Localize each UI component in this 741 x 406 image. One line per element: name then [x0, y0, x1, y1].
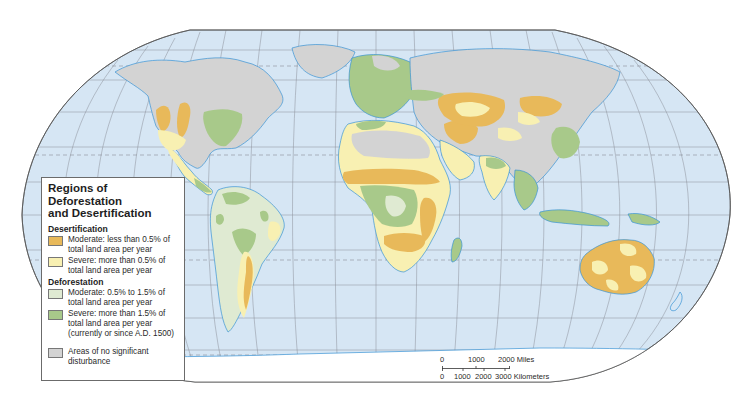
- map-legend: Regions of Deforestation and Desertifica…: [41, 177, 185, 381]
- legend-item-desert-severe: Severe: more than 0.5% of total land are…: [48, 256, 179, 276]
- legend-line: Severe: more than 1.5% of: [68, 309, 165, 318]
- swatch-deforest-moderate: [48, 289, 63, 299]
- scale-km-tick: 1000: [454, 372, 471, 381]
- legend-item-deforest-severe: Severe: more than 1.5% of total land are…: [48, 309, 179, 339]
- legend-item-text: Severe: more than 0.5% of total land are…: [68, 256, 165, 276]
- scale-km-tick: 2000: [475, 372, 492, 381]
- scale-mile-tick: 0: [440, 355, 444, 364]
- legend-line: Severe: more than 0.5% of: [68, 256, 165, 265]
- legend-line: total land area per year: [68, 319, 152, 328]
- scale-km-tick: 3000 Kilometers: [495, 372, 549, 381]
- legend-item-text: Severe: more than 1.5% of total land are…: [68, 309, 174, 339]
- legend-line: total land area per year: [68, 245, 152, 254]
- scale-mile-tick: 2000 Miles: [498, 355, 534, 364]
- scale-line: [442, 366, 522, 371]
- scale-mile-tick: 1000: [468, 355, 485, 364]
- legend-line: Moderate: 0.5% to 1.5% of: [68, 288, 165, 297]
- legend-item-desert-moderate: Moderate: less than 0.5% of total land a…: [48, 235, 179, 255]
- legend-line: total land area per year: [68, 266, 152, 275]
- swatch-no-disturbance: [48, 348, 63, 358]
- scale-kilometers: 0 1000 2000 3000 Kilometers: [440, 372, 570, 382]
- legend-title: Regions of Deforestation and Desertifica…: [48, 182, 179, 220]
- legend-item-text: Moderate: 0.5% to 1.5% of total land are…: [68, 288, 165, 308]
- legend-spacer: [48, 340, 179, 347]
- legend-item-deforest-moderate: Moderate: 0.5% to 1.5% of total land are…: [48, 288, 179, 308]
- swatch-desert-severe: [48, 257, 63, 267]
- legend-line: total land area per year: [68, 298, 152, 307]
- scale-km-tick: 0: [440, 372, 444, 381]
- scale-miles: 0 1000 2000 Miles: [440, 355, 570, 365]
- legend-line: (currently or since A.D. 1500): [68, 329, 174, 338]
- legend-item-text: Areas of no significant disturbance: [68, 347, 149, 367]
- legend-title-line2: and Desertification: [48, 207, 152, 219]
- swatch-deforest-severe: [48, 310, 63, 320]
- legend-line: disturbance: [68, 357, 110, 366]
- legend-title-line1: Regions of Deforestation: [48, 182, 122, 207]
- scale-bar: 0 1000 2000 Miles 0 1000 2000 3000 Kilom…: [440, 355, 570, 385]
- legend-line: Moderate: less than 0.5% of: [68, 235, 170, 244]
- legend-line: Areas of no significant: [68, 347, 149, 356]
- swatch-desert-moderate: [48, 236, 63, 246]
- legend-item-text: Moderate: less than 0.5% of total land a…: [68, 235, 170, 255]
- legend-heading-desertification: Desertification: [48, 224, 179, 234]
- legend-heading-deforestation: Deforestation: [48, 277, 179, 287]
- legend-item-no-disturbance: Areas of no significant disturbance: [48, 347, 179, 367]
